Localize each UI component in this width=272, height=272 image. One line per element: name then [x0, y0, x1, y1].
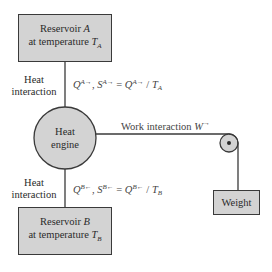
- equation-top: QA→, SA→ = QA→ / TA: [73, 78, 162, 92]
- weight-label: Weight: [221, 196, 251, 209]
- weight-box: Weight: [213, 190, 260, 215]
- reservoir-b-title: Reservoir B: [40, 215, 90, 228]
- reservoir-b-temp: at temperature TB: [28, 228, 101, 246]
- work-interaction-label: Work interaction W→: [121, 117, 210, 133]
- reservoir-b-box: Reservoir B at temperature TB: [18, 207, 112, 255]
- reservoir-a-box: Reservoir A at temperature TA: [18, 14, 112, 62]
- reservoir-b-name: B: [84, 216, 90, 227]
- heat-interaction-bottom-label: Heat interaction: [6, 177, 62, 201]
- reservoir-a-temp: at temperature TA: [28, 35, 101, 53]
- heat-interaction-top-label: Heat interaction: [6, 74, 62, 98]
- reservoir-a-name: A: [84, 23, 90, 34]
- pulley-axle-icon: [227, 141, 231, 145]
- reservoir-a-title: Reservoir A: [40, 22, 90, 35]
- heat-engine-label: Heat engine: [34, 125, 96, 151]
- equation-bottom: QB←, SB← = QB← / TB: [73, 183, 162, 197]
